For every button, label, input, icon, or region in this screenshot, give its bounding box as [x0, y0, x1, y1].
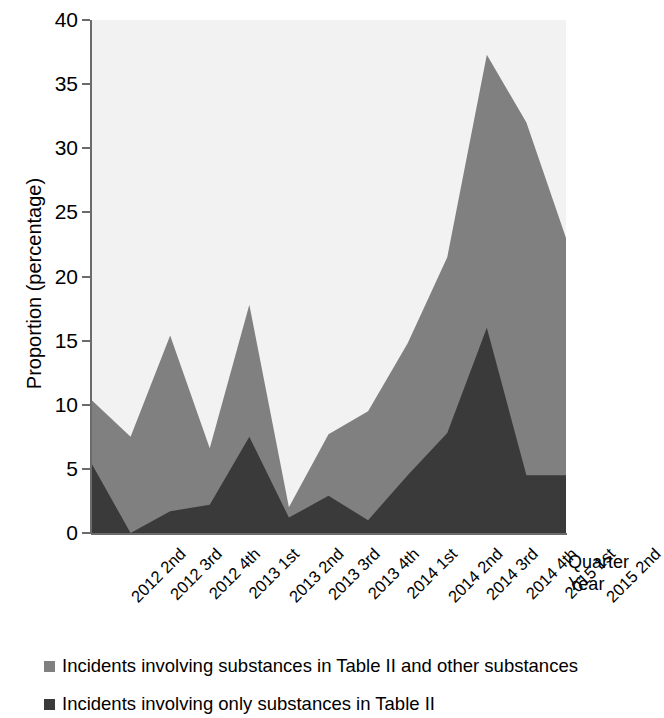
- y-axis-tick: [82, 147, 90, 149]
- plot-area: [91, 20, 566, 533]
- y-axis-tick-label: 15: [4, 330, 78, 351]
- legend-swatch-icon: [44, 661, 55, 672]
- x-axis-title: Quarter Year: [568, 551, 638, 595]
- x-axis-labels: 2012 2nd2012 3rd2012 4th2013 1st2013 2nd…: [0, 533, 635, 643]
- y-axis-tick: [82, 83, 90, 85]
- legend-item-label: Incidents involving substances in Table …: [62, 655, 578, 677]
- y-axis-tick-label: 10: [4, 394, 78, 415]
- y-axis-tick: [82, 19, 90, 21]
- y-axis-tick: [82, 404, 90, 406]
- x-axis-title-line2: Year: [568, 573, 638, 595]
- legend-swatch-icon: [44, 699, 55, 710]
- y-axis-tick-label: 40: [4, 9, 78, 30]
- legend-item[interactable]: Incidents involving substances in Table …: [44, 655, 634, 677]
- y-axis-tick: [82, 276, 90, 278]
- y-axis-tick: [82, 340, 90, 342]
- y-axis-tick-label: 20: [4, 266, 78, 287]
- y-axis-tick: [82, 211, 90, 213]
- y-axis-tick-label: 35: [4, 73, 78, 94]
- y-axis-tick: [82, 468, 90, 470]
- y-axis-tick-label: 30: [4, 137, 78, 158]
- legend-item-label: Incidents involving only substances in T…: [62, 693, 435, 715]
- y-axis-labels: 0510152025303540: [0, 0, 78, 560]
- y-axis-tick-label: 5: [4, 458, 78, 479]
- legend-item[interactable]: Incidents involving only substances in T…: [44, 693, 634, 715]
- area-chart-svg: [91, 20, 566, 533]
- y-axis-line: [90, 20, 92, 534]
- x-axis-title-line1: Quarter: [568, 551, 638, 573]
- chart-legend: Incidents involving substances in Table …: [44, 655, 634, 718]
- y-axis-tick-label: 25: [4, 201, 78, 222]
